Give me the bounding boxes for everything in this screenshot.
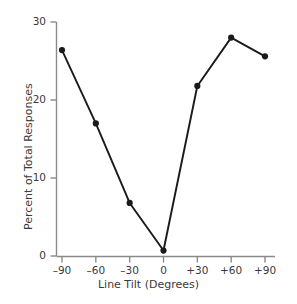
data-point-marker: [262, 53, 268, 59]
data-series-line: [62, 38, 265, 251]
data-point-marker: [194, 83, 200, 89]
y-axis-ticks: [51, 22, 57, 256]
x-axis-title: Line Tilt (Degrees): [0, 278, 297, 291]
x-axis-tick-label: +90: [245, 264, 285, 276]
data-point-marker: [228, 35, 234, 41]
x-axis-ticks: [62, 257, 265, 263]
data-point-marker: [59, 47, 65, 53]
y-axis-tick-label: 30: [14, 15, 46, 27]
y-axis-title: Percent of Total Responses: [22, 83, 35, 230]
data-series-markers: [59, 35, 268, 254]
data-point-marker: [93, 120, 99, 126]
data-point-marker: [160, 247, 166, 253]
y-axis-tick-label: 0: [14, 249, 46, 261]
chart-container: 0102030 –90–60–300+30+60+90 Line Tilt (D…: [0, 0, 297, 304]
data-point-marker: [127, 200, 133, 206]
